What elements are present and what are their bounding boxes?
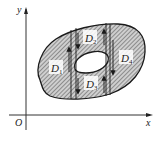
- origin-label: O: [15, 117, 22, 128]
- y-axis-arrow-icon: [24, 7, 28, 14]
- region-diagram: y x O D1 D2 D3 D4: [0, 0, 159, 143]
- y-axis-label: y: [16, 4, 22, 15]
- diagram-canvas: y x O D1 D2 D3 D4: [0, 0, 159, 143]
- x-axis-label: x: [145, 117, 151, 128]
